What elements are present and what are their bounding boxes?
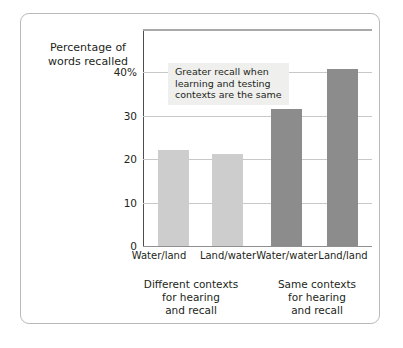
y-tick-label-10: 10 <box>99 198 137 209</box>
y-tick-label-20: 20 <box>99 154 137 165</box>
y-tick-label-40: 40% <box>99 67 137 78</box>
bar-land-land[interactable] <box>327 69 358 246</box>
y-axis-title: Percentage of words recalled <box>33 41 143 68</box>
group-caption-different-contexts: Different contexts for hearing and recal… <box>129 278 253 317</box>
category-label-land-water: Land/water <box>196 250 260 262</box>
bar-water-water[interactable] <box>271 109 302 246</box>
annotation-greater-recall: Greater recall when learning and testing… <box>168 63 289 105</box>
category-label-water-water: Water/water <box>255 250 319 262</box>
category-label-water-land: Water/land <box>127 250 191 262</box>
bar-land-water[interactable] <box>212 154 243 246</box>
x-axis-line <box>143 246 372 247</box>
y-tick-label-30: 30 <box>99 111 137 122</box>
group-caption-same-contexts: Same contexts for hearing and recall <box>262 278 372 317</box>
bar-water-land[interactable] <box>158 150 189 246</box>
category-label-land-land: Land/land <box>311 250 375 262</box>
